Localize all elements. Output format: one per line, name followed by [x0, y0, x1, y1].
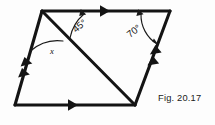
- figure-canvas: 45° 70° x: [0, 0, 215, 125]
- angle-45-label: 45°: [70, 17, 88, 35]
- top-edge-arrow-icon: [100, 5, 110, 17]
- diagonal-line: [42, 11, 135, 105]
- bottom-edge-arrow-icon: [68, 99, 78, 111]
- right-edge-arrow-icon-1: [150, 45, 162, 55]
- angle-70-arc: [141, 14, 157, 44]
- figure-caption: Fig. 20.17: [158, 93, 201, 103]
- angle-70-label: 70°: [124, 22, 142, 40]
- angle-x-arc: [31, 41, 64, 51]
- angle-x-label: x: [49, 46, 54, 56]
- right-edge-arrow-icon-2: [147, 56, 159, 66]
- parallelogram-left-edge: [15, 11, 42, 105]
- geometry-figure: 45° 70° x Fig. 20.17: [0, 0, 215, 125]
